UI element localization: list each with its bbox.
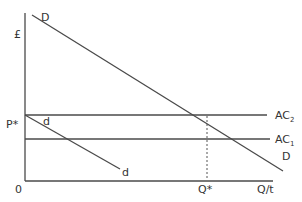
market-demand-label-start: D <box>41 11 49 24</box>
ac1-label: AC1 <box>275 133 294 148</box>
origin-label: 0 <box>15 183 22 196</box>
market-demand-label-end: D <box>282 150 290 163</box>
y-axis-label: £ <box>14 28 21 41</box>
quantity-marker-label: Q* <box>198 183 213 196</box>
firm-demand-label-end: d <box>122 166 129 179</box>
firm-demand-line <box>25 115 120 169</box>
price-marker-label: P* <box>6 118 19 131</box>
ac2-label: AC2 <box>275 109 294 124</box>
firm-demand-label-start: d <box>43 115 50 128</box>
market-demand-line <box>32 15 283 171</box>
x-axis-label: Q/t <box>257 183 274 196</box>
diagram-canvas: £ D D AC2 AC1 d d P* Q* Q/t 0 <box>0 0 302 202</box>
